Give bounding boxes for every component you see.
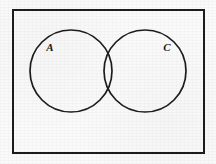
- set-c-label: C: [163, 41, 171, 53]
- venn-diagram-figure: A C: [0, 0, 216, 164]
- set-c-circle: [104, 30, 186, 112]
- set-a-circle: [30, 30, 112, 112]
- set-a-label: A: [45, 41, 53, 53]
- universal-set-rectangle: [13, 10, 204, 153]
- venn-diagram-canvas: A C: [0, 0, 216, 164]
